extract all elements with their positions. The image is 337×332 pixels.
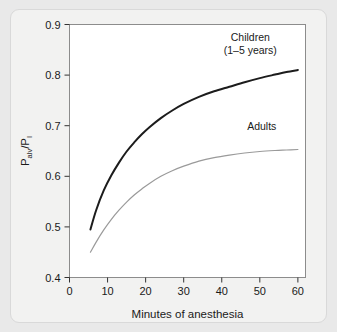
x-axis-tick-label-20: 20 bbox=[140, 285, 152, 297]
x-axis-tick-label-50: 50 bbox=[254, 285, 266, 297]
y-axis-tick-label-0.4: 0.4 bbox=[45, 272, 60, 284]
y-axis-tick-label-0.8: 0.8 bbox=[45, 69, 60, 81]
figure-container: 0.40.50.60.70.80.90102030405060Children(… bbox=[0, 0, 337, 332]
y-axis-tick-label-0.5: 0.5 bbox=[45, 221, 60, 233]
x-axis-title: Minutes of anesthesia bbox=[132, 308, 244, 320]
y-axis-tick-label-0.9: 0.9 bbox=[45, 19, 60, 31]
annotation-children-age: (1–5 years) bbox=[224, 44, 277, 56]
annotation-children: Children bbox=[231, 31, 270, 43]
chart-canvas: 0.40.50.60.70.80.90102030405060Children(… bbox=[0, 0, 337, 332]
x-axis-tick-label-40: 40 bbox=[216, 285, 228, 297]
x-axis-tick-label-60: 60 bbox=[292, 285, 304, 297]
x-axis-tick-label-10: 10 bbox=[101, 285, 113, 297]
x-axis-tick-label-0: 0 bbox=[66, 285, 72, 297]
y-axis-tick-label-0.7: 0.7 bbox=[45, 120, 60, 132]
y-axis-tick-label-0.6: 0.6 bbox=[45, 170, 60, 182]
x-axis-tick-label-30: 30 bbox=[178, 285, 190, 297]
annotation-adults: Adults bbox=[247, 120, 276, 132]
y-axis-title: Palv/PI bbox=[19, 136, 34, 166]
